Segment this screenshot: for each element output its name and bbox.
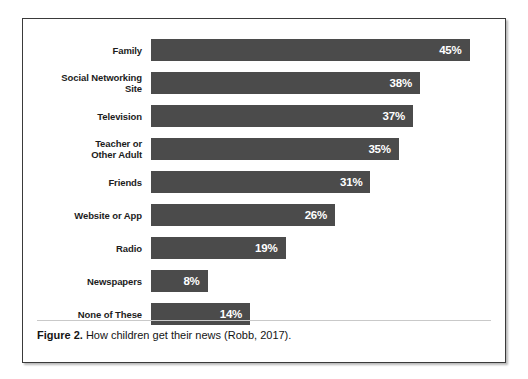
bar-track: 26% bbox=[151, 204, 505, 226]
bar: 35% bbox=[151, 138, 399, 160]
bar-row: Website or App26% bbox=[23, 204, 505, 226]
bar-value-label: 31% bbox=[340, 176, 362, 188]
bar: 19% bbox=[151, 237, 286, 259]
bar: 8% bbox=[151, 270, 208, 292]
bar-row: Radio19% bbox=[23, 237, 505, 259]
bar-row: Social Networking Site38% bbox=[23, 72, 505, 94]
figure-caption-text: How children get their news (Robb, 2017)… bbox=[83, 329, 292, 341]
bar-value-label: 35% bbox=[368, 143, 390, 155]
bar-row: Friends31% bbox=[23, 171, 505, 193]
bar-value-label: 14% bbox=[220, 308, 242, 320]
figure-container: Family45%Social Networking Site38%Televi… bbox=[22, 18, 506, 363]
bar-value-label: 45% bbox=[439, 44, 461, 56]
bar-track: 35% bbox=[151, 138, 505, 160]
bar-value-label: 37% bbox=[383, 110, 405, 122]
bar: 14% bbox=[151, 303, 250, 325]
bar-category-label: Radio bbox=[23, 243, 151, 254]
bar-track: 14% bbox=[151, 303, 505, 325]
figure-caption: Figure 2. How children get their news (R… bbox=[37, 328, 491, 343]
bar-value-label: 8% bbox=[183, 275, 199, 287]
bar-value-label: 38% bbox=[390, 77, 412, 89]
bar-chart: Family45%Social Networking Site38%Televi… bbox=[23, 19, 505, 304]
bar-category-label: Friends bbox=[23, 177, 151, 188]
bar-category-label: Newspapers bbox=[23, 276, 151, 287]
bar-category-label: Teacher or Other Adult bbox=[23, 138, 151, 160]
bar-track: 45% bbox=[151, 39, 505, 61]
caption-divider bbox=[37, 320, 491, 321]
bar-category-label: Website or App bbox=[23, 210, 151, 221]
bar-track: 19% bbox=[151, 237, 505, 259]
figure-caption-label: Figure 2. bbox=[37, 329, 83, 341]
bar-row: None of These14% bbox=[23, 303, 505, 325]
bar-track: 31% bbox=[151, 171, 505, 193]
bar-row: Newspapers8% bbox=[23, 270, 505, 292]
bar-row: Television37% bbox=[23, 105, 505, 127]
bar-value-label: 19% bbox=[255, 242, 277, 254]
bar: 45% bbox=[151, 39, 470, 61]
bar-category-label: Social Networking Site bbox=[23, 72, 151, 94]
bar-row: Family45% bbox=[23, 39, 505, 61]
bar: 37% bbox=[151, 105, 413, 127]
bar-track: 38% bbox=[151, 72, 505, 94]
bar-category-label: Family bbox=[23, 45, 151, 56]
bar: 38% bbox=[151, 72, 420, 94]
bar-track: 37% bbox=[151, 105, 505, 127]
bar: 31% bbox=[151, 171, 370, 193]
bar-row: Teacher or Other Adult35% bbox=[23, 138, 505, 160]
bar-value-label: 26% bbox=[305, 209, 327, 221]
bar-category-label: None of These bbox=[23, 309, 151, 320]
bar-category-label: Television bbox=[23, 111, 151, 122]
bar: 26% bbox=[151, 204, 335, 226]
bar-track: 8% bbox=[151, 270, 505, 292]
